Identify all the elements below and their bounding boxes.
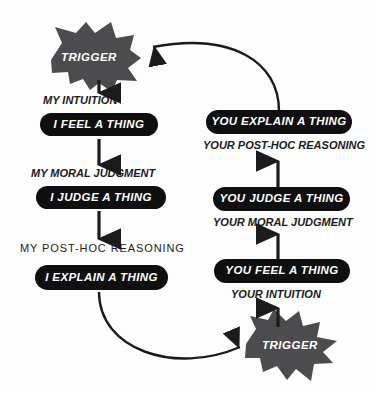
caption-your-post-hoc-reasoning: YOUR POST-HOC REASONING	[203, 140, 365, 151]
pill-you-feel-a-thing[interactable]: YOU FEEL A THING	[214, 259, 350, 283]
pill-you-judge-a-thing-label: YOU JUDGE A THING	[219, 193, 343, 205]
trigger-star-bottom-label: TRIGGER	[262, 340, 318, 352]
caption-your-moral-judgment: YOUR MORAL JUDGMENT	[213, 217, 353, 228]
pill-you-feel-a-thing-label: YOU FEEL A THING	[225, 265, 338, 277]
caption-my-intuition: MY INTUITION	[43, 95, 117, 106]
pill-you-explain-a-thing[interactable]: YOU EXPLAIN A THING	[206, 110, 352, 134]
pill-i-explain-a-thing-label: I EXPLAIN A THING	[45, 271, 158, 283]
pill-you-explain-a-thing-label: YOU EXPLAIN A THING	[211, 116, 346, 128]
trigger-star-top-label: TRIGGER	[61, 52, 117, 64]
pill-i-feel-a-thing[interactable]: I FEEL A THING	[40, 113, 158, 136]
diagram-canvas: TRIGGER MY INTUITION I FEEL A THING MY M…	[0, 0, 377, 393]
pill-i-judge-a-thing-label: I JUDGE A THING	[50, 191, 152, 203]
caption-your-intuition: YOUR INTUITION	[231, 289, 321, 300]
pill-you-judge-a-thing[interactable]: YOU JUDGE A THING	[213, 187, 350, 211]
pill-i-explain-a-thing[interactable]: I EXPLAIN A THING	[35, 265, 168, 290]
caption-my-post-hoc-reasoning: MY POST-HOC REASONING	[20, 243, 185, 254]
curve-youexplain-to-my-trigger	[153, 43, 279, 111]
caption-my-moral-judgment: MY MORAL JUDGMENT	[31, 168, 155, 179]
curve-iexplain-to-your-trigger	[99, 292, 240, 358]
pill-i-feel-a-thing-label: I FEEL A THING	[54, 118, 145, 130]
pill-i-judge-a-thing[interactable]: I JUDGE A THING	[36, 186, 166, 209]
